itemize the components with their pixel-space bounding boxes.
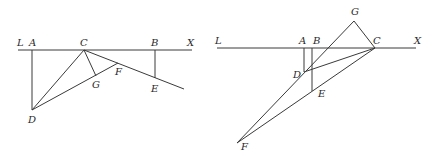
point-label-C: C [80, 37, 88, 48]
point-label-A: A [298, 35, 306, 46]
point-label-F: F [240, 141, 249, 152]
segment-G-C [354, 21, 375, 48]
point-label-E: E [317, 88, 326, 99]
point-label-L: L [16, 37, 24, 48]
point-label-D: D [27, 114, 36, 125]
point-label-B: B [312, 35, 320, 46]
point-label-A: A [28, 37, 36, 48]
point-label-C: C [373, 35, 381, 46]
segment-F-C [237, 48, 375, 143]
segment-F-G [237, 21, 354, 143]
point-label-L: L [214, 35, 222, 46]
point-label-F: F [114, 66, 123, 77]
left-figure: LACBXFGED [16, 37, 195, 125]
point-label-X: X [413, 35, 422, 46]
geometry-diagram: LACBXFGED LGABCXDEF [0, 0, 430, 165]
right-figure: LGABCXDEF [214, 6, 422, 152]
segment-D-F [32, 63, 118, 110]
point-label-E: E [150, 83, 159, 94]
point-label-G: G [92, 79, 100, 90]
point-label-B: B [150, 37, 158, 48]
point-label-G: G [351, 6, 359, 17]
point-label-D: D [292, 69, 301, 80]
segment-C-D [32, 50, 84, 110]
point-label-X: X [186, 37, 195, 48]
segment-D-C [304, 48, 375, 72]
